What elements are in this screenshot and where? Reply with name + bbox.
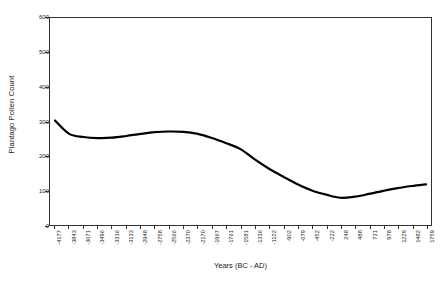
x-axis-tick-mark [226,226,227,229]
x-axis-tick-label: 1229 [401,230,407,243]
x-axis-tick-mark [398,226,399,229]
x-axis-tick-label: -452 [314,230,320,242]
x-axis-tick-label: 488 [357,230,363,240]
x-axis-tick-mark [126,226,127,229]
x-axis-tick-mark [54,226,55,229]
x-axis-tick-mark [413,226,414,229]
x-axis-tick-mark [154,226,155,229]
x-axis-tick-label: -3843 [71,230,77,245]
x-axis-tick-label: -3671 [85,230,91,245]
x-axis-tick-label: 731 [372,230,378,240]
x-axis-tick-mark [312,226,313,229]
x-axis-tick-label: 1759 [429,230,435,243]
x-axis-tick-label: -1581 [243,230,249,245]
x-axis-tick-mark [169,226,170,229]
x-axis-tick-label: -2948 [142,230,148,245]
x-axis-tick-mark [140,226,141,229]
x-axis-tick-group: -4177-3843-3671-3496-3316-3133-2948-2758… [49,226,432,260]
x-axis-tick-mark [212,226,213,229]
x-axis-tick-label: -222 [329,230,335,242]
x-axis-tick-label: -1122 [271,230,277,244]
x-axis-tick-label: -902 [286,230,292,242]
plot-area [49,17,432,226]
x-axis-tick-mark [284,226,285,229]
plantago-pollen-count-curve [55,120,426,197]
y-axis-tick-label: 300 [3,119,49,125]
y-axis-tick-label: 100 [3,188,49,194]
x-axis-tick-label: 1482 [415,230,421,243]
x-axis-tick-label: -1336 [257,230,263,245]
x-axis-tick-mark [384,226,385,229]
pollen-count-line-chart: Plantago Pollen Count 010020030040050060… [0,0,448,282]
x-axis-tick-mark [241,226,242,229]
x-axis-tick-mark [83,226,84,229]
y-axis-tick-label: 0 [3,223,49,229]
x-axis-tick-mark [341,226,342,229]
x-axis-tick-mark [255,226,256,229]
x-axis-tick-mark [355,226,356,229]
y-axis-tick-label: 600 [3,14,49,20]
x-axis-tick-label: -679 [300,230,306,242]
x-axis-tick-label: 248 [343,230,349,240]
x-axis-tick-mark [197,226,198,229]
x-axis-tick-label: -4177 [56,230,62,245]
x-axis-tick-label: -1761 [228,230,234,245]
x-axis-tick-label: -2566 [171,230,177,245]
y-axis-tick-label: 400 [3,84,49,90]
x-axis-tick-mark [427,226,428,229]
x-axis-tick-label: -1967 [214,230,220,245]
x-axis-tick-label: -2370 [185,230,191,245]
x-axis-tick-mark [111,226,112,229]
data-line-series [50,18,431,225]
x-axis-tick-mark [269,226,270,229]
x-axis-tick-mark [327,226,328,229]
y-axis-tick-group: 0100200300400500600 [0,17,49,226]
y-axis-tick-label: 500 [3,49,49,55]
x-axis-tick-label: -3316 [114,230,120,245]
x-axis-tick-mark [97,226,98,229]
x-axis-tick-label: -3133 [128,230,134,245]
x-axis-tick-mark [68,226,69,229]
x-axis-tick-label: -2170 [200,230,206,245]
x-axis-tick-label: -2758 [157,230,163,245]
x-axis-tick-mark [298,226,299,229]
x-axis-tick-mark [370,226,371,229]
x-axis-tick-label: -3496 [99,230,105,245]
x-axis-title: Years (BC - AD) [49,261,432,270]
x-axis-tick-label: 978 [386,230,392,240]
x-axis-tick-mark [183,226,184,229]
y-axis-tick-label: 200 [3,153,49,159]
